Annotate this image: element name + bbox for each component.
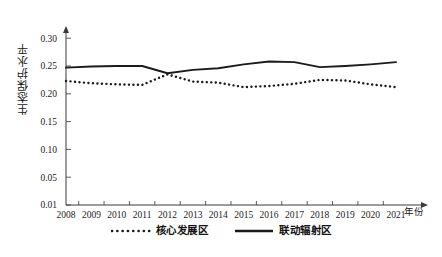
x-tick-label: 2009 [82,210,101,220]
chart-legend: 核心发展区 联动辐射区 [0,226,442,237]
series-line-2 [66,62,396,74]
x-tick-label: 2015 [234,210,253,220]
x-tick-label: 2019 [336,210,355,220]
x-tick-mark-group [79,201,384,205]
dotted-line-swatch-icon [111,227,151,235]
y-tick-label: 0.25 [40,61,57,71]
x-tick-label: 2008 [57,210,76,220]
x-tick-label: 2014 [209,210,228,220]
series-group [66,62,396,88]
legend-label-linkage-radiation-zone: 联动辐射区 [279,226,332,237]
y-tick-mark-group [66,38,71,205]
x-tick-label: 2012 [158,210,177,220]
y-tick-label: 0.20 [40,89,57,99]
y-axis-arrow [63,26,69,33]
legend-item-core-development-zone: 核心发展区 [111,226,209,237]
x-tick-label: 2010 [107,210,126,220]
x-tick-label-group: 2008200920102011201220132014201520162017… [57,210,406,220]
y-tick-label-group: 0.010.050.100.150.200.250.30 [40,34,57,211]
y-tick-label: 0.10 [40,145,57,155]
legend-item-linkage-radiation-zone: 联动辐射区 [234,226,332,237]
x-tick-label: 2013 [183,210,202,220]
x-tick-label: 2017 [285,210,304,220]
series-line-1 [66,74,396,87]
plot-area: 0.010.050.100.150.200.250.30 20082009201… [0,0,442,257]
x-tick-label: 2016 [260,210,279,220]
y-tick-label: 0.05 [40,173,57,183]
y-tick-label: 0.30 [40,34,57,44]
x-tick-label: 2011 [133,210,152,220]
ecological-protection-line-chart: 生态保护水平 0.010.050.100.150.200.250.30 2008… [0,0,442,257]
legend-label-core-development-zone: 核心发展区 [156,226,209,237]
axis-line-group [63,26,428,208]
x-axis-title: 年份 [404,206,424,217]
x-tick-label: 2020 [361,210,380,220]
x-tick-label: 2021 [387,210,406,220]
x-tick-label: 2018 [310,210,329,220]
y-tick-label: 0.01 [40,200,57,210]
solid-line-swatch-icon [234,227,274,235]
y-tick-label: 0.15 [40,117,57,127]
